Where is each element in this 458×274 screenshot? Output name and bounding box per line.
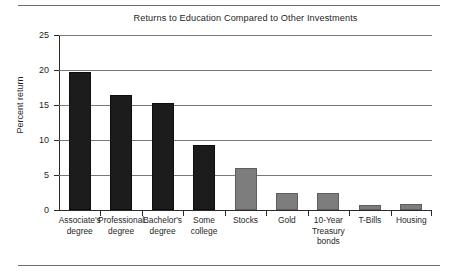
bar [400, 204, 422, 210]
bar [110, 95, 132, 210]
page-rule-bottom [18, 265, 440, 266]
x-tick-label-line: bonds [302, 236, 354, 247]
chart-figure: Returns to Education Compared to Other I… [0, 0, 458, 274]
x-tick-label-line: Housing [385, 215, 437, 226]
y-tick-label: 10 [21, 136, 49, 145]
bar [359, 205, 381, 210]
bar [69, 72, 91, 210]
y-tick-label: 25 [21, 31, 49, 40]
y-tick-mark [54, 210, 59, 211]
y-tick-label: 20 [21, 66, 49, 75]
x-tick-label-line: Treasury [302, 226, 354, 237]
y-tick-label: 15 [21, 101, 49, 110]
x-tick-label: Housing [385, 215, 437, 226]
x-axis-labels: Associate'sdegreeProfessionaldegreeBache… [59, 215, 432, 263]
bar [235, 168, 257, 210]
plot-area: 0510152025 [59, 35, 432, 210]
bar [152, 103, 174, 210]
y-tick-label: 5 [21, 171, 49, 180]
x-axis-line [59, 210, 432, 211]
bar [276, 193, 298, 210]
page-rule-top [18, 5, 440, 6]
chart-title: Returns to Education Compared to Other I… [59, 13, 432, 23]
bar [317, 193, 339, 210]
bar [193, 145, 215, 210]
bar-series [59, 35, 432, 210]
y-tick-label: 0 [21, 206, 49, 215]
x-tick-label-line: college [178, 226, 230, 237]
